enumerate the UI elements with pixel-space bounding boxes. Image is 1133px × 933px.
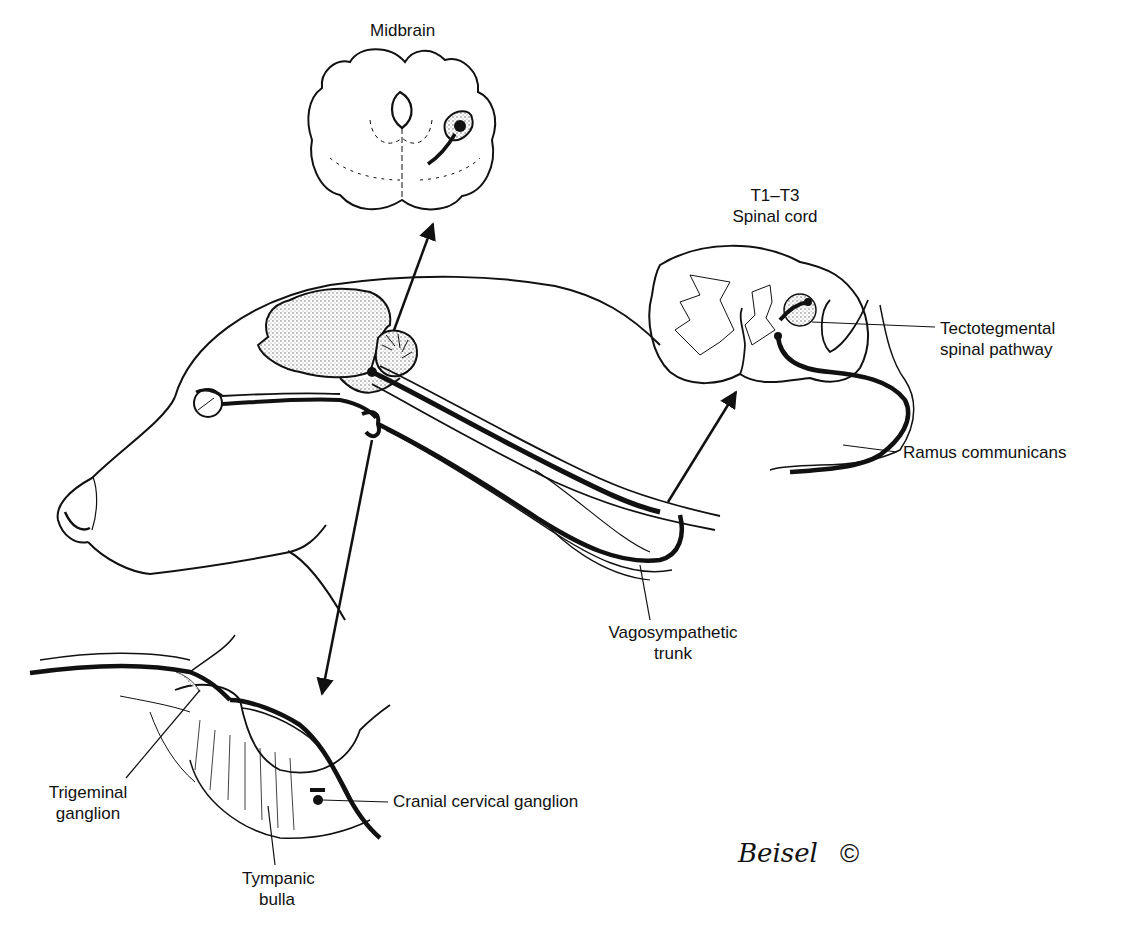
label-spinal-cord-level: T1–T3 [720, 185, 830, 206]
copyright-symbol: © [840, 838, 859, 869]
label-midbrain: Midbrain [370, 20, 435, 41]
label-line: ganglion [38, 803, 138, 824]
brain [258, 289, 417, 393]
spinal-cord-section [649, 246, 913, 472]
label-line: Vagosympathetic [598, 622, 748, 643]
label-tectotegmental-pathway: Tectotegmental spinal pathway [940, 318, 1055, 360]
label-vagosympathetic-trunk: Vagosympathetic trunk [598, 622, 748, 664]
label-ramus-communicans: Ramus communicans [903, 442, 1066, 463]
midbrain-section [308, 49, 495, 209]
label-spinal-cord: T1–T3 Spinal cord [720, 185, 830, 227]
label-line: spinal pathway [940, 339, 1055, 360]
label-line: trunk [598, 643, 748, 664]
label-line: Tympanic [242, 868, 312, 889]
label-cranial-cervical-ganglion: Cranial cervical ganglion [393, 791, 578, 812]
label-tympanic-bulla: Tympanic bulla [242, 868, 312, 910]
label-line: Trigeminal [38, 782, 138, 803]
arrow-to-middle-ear [322, 440, 372, 694]
artist-signature: Beisel [738, 838, 818, 868]
label-line: bulla [242, 889, 312, 910]
label-trigeminal-ganglion: Trigeminal ganglion [38, 782, 138, 824]
eye [194, 389, 222, 417]
label-line: Tectotegmental [940, 318, 1055, 339]
label-spinal-cord-name: Spinal cord [720, 206, 830, 227]
arrow-to-spinal-cord [668, 392, 736, 502]
